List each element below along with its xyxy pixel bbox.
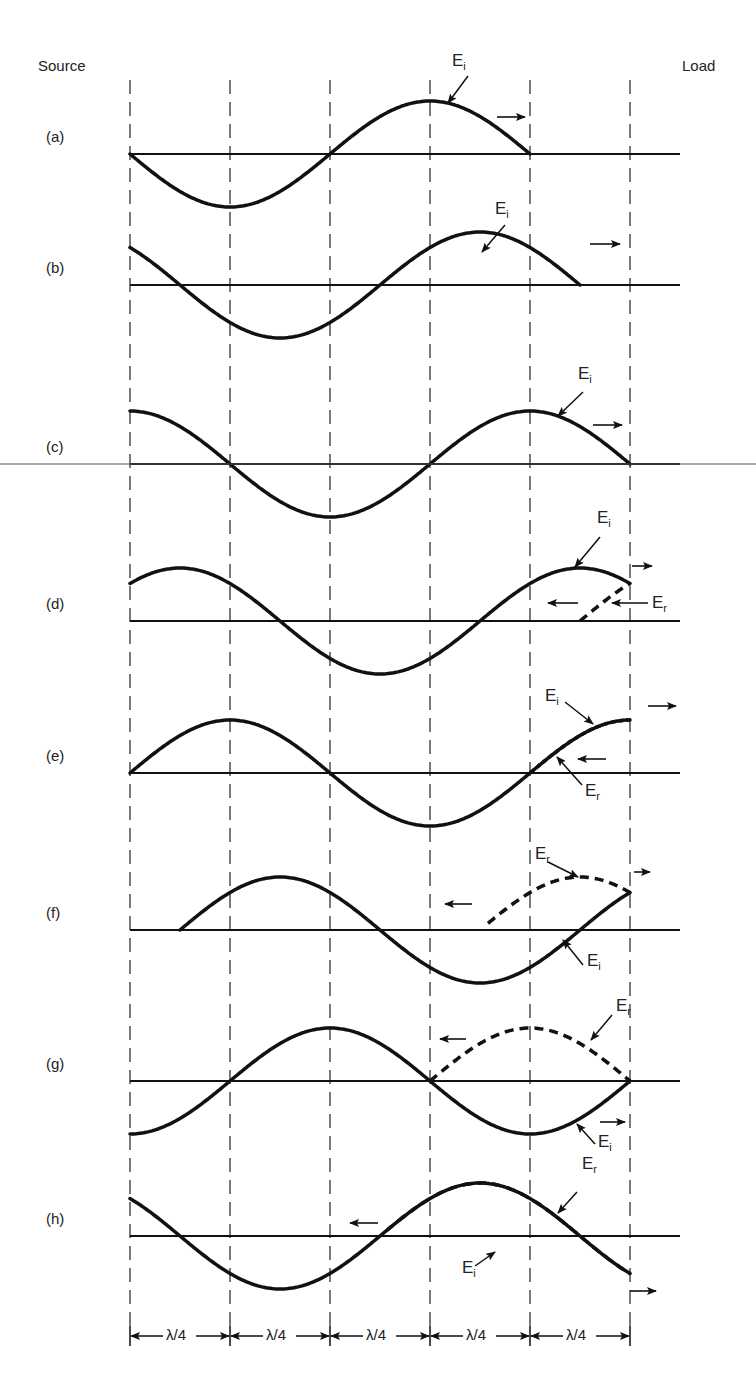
panel-c bbox=[130, 392, 680, 517]
reflected-leader-arrow-icon bbox=[591, 1015, 612, 1040]
wave-canvas bbox=[0, 0, 756, 1380]
quarter-wavelength-label: λ/4 bbox=[163, 1326, 189, 1343]
reflected-symbol-label: Er bbox=[616, 996, 631, 1017]
panel-b bbox=[130, 225, 680, 338]
panel-label-a: (a) bbox=[46, 128, 64, 145]
incident-leader-arrow-icon bbox=[448, 76, 468, 103]
incident-leader-arrow-icon bbox=[565, 702, 593, 724]
transmission-line-wave-diagram: Source Load (a)(b)(c)(d)(e)(f)(g)(h) EiE… bbox=[0, 0, 756, 1380]
incident-symbol-label: Ei bbox=[598, 1132, 612, 1153]
reflected-leader-arrow-icon bbox=[548, 862, 578, 877]
incident-symbol-label: Ei bbox=[597, 508, 611, 529]
panel-g bbox=[130, 1015, 680, 1144]
reflected-symbol-label: Er bbox=[535, 844, 550, 865]
incident-symbol-label: Ei bbox=[578, 364, 592, 385]
incident-symbol-label: Ei bbox=[462, 1258, 476, 1279]
reflected-wave bbox=[386, 1183, 630, 1274]
quarter-wavelength-label: λ/4 bbox=[363, 1326, 389, 1343]
incident-leader-arrow-icon bbox=[575, 537, 600, 567]
panel-label-e: (e) bbox=[46, 747, 64, 764]
reflected-symbol-label: Er bbox=[652, 593, 667, 614]
reflected-symbol-label: Er bbox=[585, 781, 600, 802]
panel-e bbox=[130, 702, 680, 826]
quarter-wavelength-label: λ/4 bbox=[463, 1326, 489, 1343]
panel-d bbox=[130, 537, 680, 674]
reflected-leader-arrow-icon bbox=[558, 1192, 577, 1213]
panel-label-d: (d) bbox=[46, 595, 64, 612]
incident-leader-arrow-icon bbox=[558, 392, 583, 416]
incident-symbol-label: Ei bbox=[452, 51, 466, 72]
incident-symbol-label: Ei bbox=[587, 951, 601, 972]
panel-label-g: (g) bbox=[46, 1055, 64, 1072]
incident-leader-arrow-icon bbox=[482, 225, 505, 252]
incident-leader-arrow-icon bbox=[563, 940, 583, 965]
incident-symbol-label: Ei bbox=[545, 686, 559, 707]
incident-leader-arrow-icon bbox=[475, 1252, 495, 1266]
reflected-wave bbox=[530, 720, 630, 773]
panel-label-c: (c) bbox=[46, 438, 64, 455]
panel-label-b: (b) bbox=[46, 259, 64, 276]
quarter-wavelength-label: λ/4 bbox=[263, 1326, 289, 1343]
reflected-leader-arrow-icon bbox=[557, 757, 582, 785]
load-label: Load bbox=[682, 57, 715, 74]
wave-panels bbox=[0, 76, 756, 1291]
panel-a bbox=[130, 76, 680, 207]
incident-leader-arrow-icon bbox=[577, 1124, 595, 1144]
panel-label-h: (h) bbox=[46, 1210, 64, 1227]
reflected-wave bbox=[488, 877, 630, 923]
source-label: Source bbox=[38, 57, 86, 74]
quarter-wavelength-label: λ/4 bbox=[563, 1326, 589, 1343]
reflected-symbol-label: Er bbox=[582, 1154, 597, 1175]
panel-h bbox=[130, 1183, 680, 1291]
incident-symbol-label: Ei bbox=[495, 199, 509, 220]
panel-label-f: (f) bbox=[46, 904, 60, 921]
